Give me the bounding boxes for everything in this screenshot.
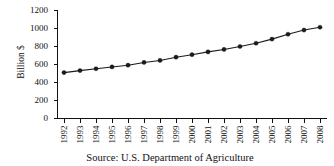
x-tick-label: 1995 (107, 125, 117, 144)
x-tick-label: 2003 (235, 125, 245, 144)
chart-figure: Billion $ 0 200 400 600 800 1000 1200 (0, 0, 334, 166)
data-point (206, 50, 210, 54)
x-tick-label: 1998 (155, 125, 165, 144)
data-point (110, 65, 114, 69)
x-tick-label: 2000 (187, 125, 197, 144)
data-point (254, 41, 258, 45)
y-tick-label: 600 (35, 59, 49, 69)
data-point (174, 55, 178, 59)
x-tick-label: 2006 (283, 125, 293, 144)
x-tick-label: 1999 (171, 125, 181, 144)
x-tick-label: 1996 (123, 125, 133, 144)
x-tick-label: 2007 (299, 125, 309, 144)
y-tick-label: 1200 (30, 5, 49, 15)
data-point (62, 71, 66, 75)
x-tick-label: 1997 (139, 125, 149, 144)
chart-caption: Source: U.S. Department of Agriculture (86, 152, 254, 163)
data-point (302, 28, 306, 32)
data-point (318, 25, 322, 29)
x-tick-label: 2008 (315, 125, 325, 144)
x-tick-label: 2001 (203, 126, 213, 144)
data-point (142, 60, 146, 64)
data-point (270, 37, 274, 41)
data-point (94, 67, 98, 71)
x-tick-label: 1992 (59, 126, 69, 144)
data-point (222, 47, 226, 51)
x-tick-label: 2004 (251, 125, 261, 144)
data-point (78, 69, 82, 73)
x-tick-label: 2002 (219, 126, 229, 144)
y-tick-label: 0 (44, 113, 49, 123)
y-axis-title: Billion $ (16, 45, 26, 79)
y-tick-label: 200 (35, 95, 49, 105)
data-point (238, 44, 242, 48)
y-tick-label: 1000 (30, 23, 49, 33)
y-tick-label: 800 (35, 41, 49, 51)
x-tick-label: 1994 (91, 125, 101, 144)
data-point (158, 58, 162, 62)
x-axis-tick-labels: 1992199319941995199619971998199920002001… (59, 125, 325, 144)
data-point (286, 32, 290, 36)
data-point (126, 63, 130, 67)
x-tick-label: 2005 (267, 125, 277, 144)
data-point (190, 53, 194, 57)
line-chart: Billion $ 0 200 400 600 800 1000 1200 (0, 0, 334, 166)
y-tick-label: 400 (35, 77, 49, 87)
x-tick-label: 1993 (75, 125, 85, 144)
